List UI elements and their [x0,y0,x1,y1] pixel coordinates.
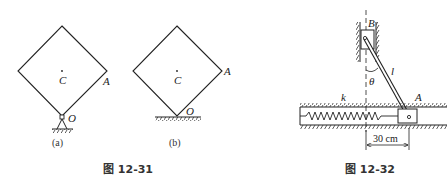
label-c-b: C [174,74,182,86]
caption-b: (b) [169,137,181,149]
label-theta: θ [369,75,375,87]
figure-12-31a: C A O (a) [18,26,110,149]
label-l: l [391,65,394,77]
label-o-b: O [186,105,194,117]
caption-a: (a) [52,137,63,149]
dimension-label: 30 cm [373,133,398,144]
pin-a [407,115,410,118]
label-k: k [341,91,347,103]
spring-icon [300,112,398,120]
label-a-b: A [223,65,231,77]
figure-12-31b: C A O (b) [133,26,231,149]
label-c-a: C [59,74,67,86]
center-dot-b [176,70,178,72]
label-a-a: A [102,75,110,87]
label-o-a: O [68,112,76,124]
center-dot-a [61,70,63,72]
label-b: B [368,17,375,29]
angle-arc [366,68,378,72]
figure-12-31-caption: 图 12-31 [103,163,153,176]
figure-12-32: B l θ k A 30 cm [300,10,447,150]
label-a: A [414,91,422,103]
diagram-canvas: C A O (a) C A O (b) 图 12-31 [0,0,447,181]
figure-12-32-caption: 图 12-32 [345,163,395,176]
floor-icon [155,117,201,121]
